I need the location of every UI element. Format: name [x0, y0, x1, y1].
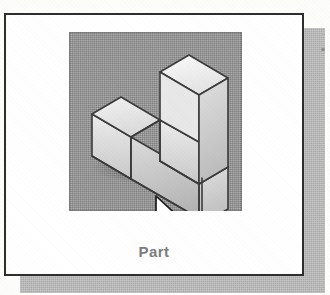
part-template-tile[interactable]: Part — [4, 13, 304, 276]
scanned-page: Part — [0, 0, 330, 295]
scan-speckle — [321, 48, 325, 51]
stepped-l-block-icon — [69, 32, 242, 211]
template-caption: Part — [6, 243, 302, 260]
part-thumbnail-panel[interactable] — [69, 32, 242, 211]
scan-speckle — [322, 33, 325, 36]
